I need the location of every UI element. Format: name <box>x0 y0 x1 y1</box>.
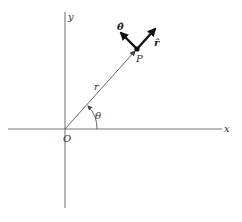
x-axis-label: x <box>224 123 230 134</box>
point-p-label: P <box>135 53 143 64</box>
theta-hat-label: θ̂ <box>117 21 124 32</box>
r-hat-label: r̂ <box>154 37 160 48</box>
unit-vector-theta-hat <box>121 33 137 49</box>
theta-label: θ <box>95 110 101 121</box>
unit-vector-r-hat <box>137 29 155 49</box>
y-axis-label: y <box>67 11 74 22</box>
origin-label: O <box>63 133 71 144</box>
polar-coordinate-diagram: y x O r θ P θ̂ r̂ <box>0 0 242 222</box>
